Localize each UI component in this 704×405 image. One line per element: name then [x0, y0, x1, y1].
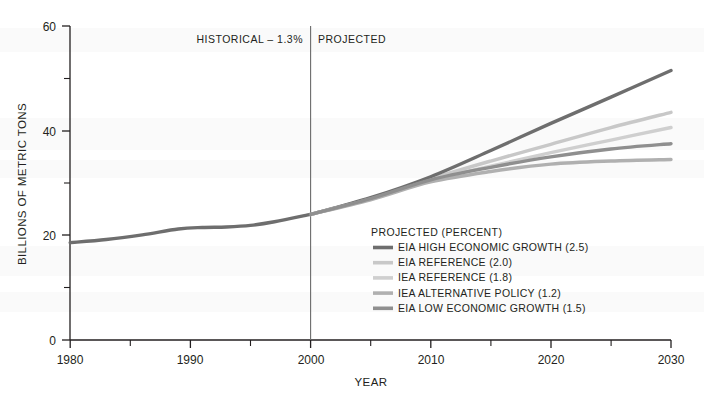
- legend-item: EIA LOW ECONOMIC GROWTH (1.5): [373, 302, 586, 314]
- y-axis-title: BILLIONS OF METRIC TONS: [16, 103, 28, 265]
- legend-title: PROJECTED (PERCENT): [371, 226, 502, 238]
- legend-item-label: EIA HIGH ECONOMIC GROWTH (2.5): [398, 241, 588, 253]
- x-tick-label-1990: 1990: [177, 353, 204, 367]
- series-layer: [70, 70, 671, 242]
- emissions-projection-line-chart: BILLIONS OF METRIC TONS 60 40 20 0: [0, 0, 704, 405]
- legend-item: IEA REFERENCE (1.8): [373, 271, 512, 283]
- y-tick-label-20: 20: [43, 229, 57, 243]
- legend-item-label: EIA LOW ECONOMIC GROWTH (1.5): [398, 302, 586, 314]
- series-line: [70, 214, 310, 242]
- x-tick-label-1980: 1980: [57, 353, 84, 367]
- projected-band-label: PROJECTED: [318, 33, 386, 45]
- legend-item: IEA ALTERNATIVE POLICY (1.2): [373, 287, 561, 299]
- legend-item: EIA HIGH ECONOMIC GROWTH (2.5): [373, 241, 588, 253]
- series-line: [311, 70, 671, 214]
- x-tick-label-2010: 2010: [418, 353, 445, 367]
- x-axis-minor-ticks: [130, 340, 611, 346]
- legend-item: EIA REFERENCE (2.0): [373, 256, 512, 268]
- x-tick-label-2030: 2030: [658, 353, 685, 367]
- x-tick-label-2000: 2000: [298, 353, 325, 367]
- legend-item-label: EIA REFERENCE (2.0): [398, 256, 512, 268]
- y-tick-label-40: 40: [43, 125, 57, 139]
- y-axis-minor-ticks: [64, 79, 70, 288]
- x-axis-title: YEAR: [355, 376, 388, 388]
- chart-legend: PROJECTED (PERCENT)EIA HIGH ECONOMIC GRO…: [371, 226, 588, 314]
- historical-band-label: HISTORICAL – 1.3%: [196, 33, 303, 45]
- legend-item-label: IEA ALTERNATIVE POLICY (1.2): [398, 287, 561, 299]
- y-tick-label-60: 60: [43, 20, 57, 34]
- y-tick-label-0: 0: [49, 334, 56, 348]
- chart-figure: BILLIONS OF METRIC TONS 60 40 20 0: [0, 0, 704, 405]
- legend-item-label: IEA REFERENCE (1.8): [398, 271, 512, 283]
- x-tick-label-2020: 2020: [538, 353, 565, 367]
- series-line: [311, 144, 671, 215]
